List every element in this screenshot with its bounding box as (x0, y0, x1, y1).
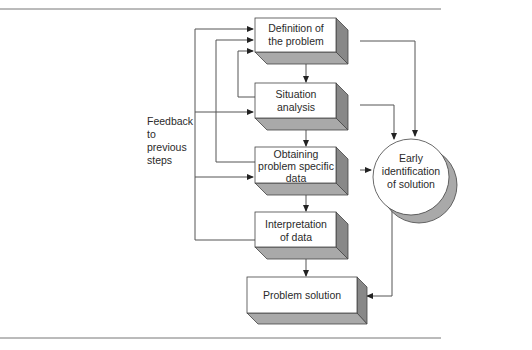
problem-solving-diagram: Definition of the problem Situation anal… (0, 0, 532, 350)
circle-label: identification (382, 165, 441, 177)
box-label: Situation (276, 88, 317, 100)
box-definition: Definition of the problem (255, 18, 348, 64)
box-label: problem specific (258, 160, 334, 172)
box-label: Interpretation (265, 218, 327, 230)
feedback-label-line: to (147, 128, 156, 140)
box-interpretation: Interpretation of data (255, 212, 348, 259)
feedback-label-line: previous (147, 141, 187, 153)
box-label: Obtaining (274, 148, 319, 160)
feedback-lines (195, 29, 255, 240)
box-label: of data (280, 231, 312, 243)
box-obtaining: Obtaining problem specific data (255, 147, 348, 195)
box-label: Problem solution (263, 289, 341, 301)
feedback-label-line: steps (147, 154, 172, 166)
feedback-label: Feedback to previous steps (147, 115, 194, 166)
box-label: Definition of (268, 22, 324, 34)
box-label: analysis (277, 101, 315, 113)
box-situation: Situation analysis (255, 83, 348, 130)
box-solution: Problem solution (247, 277, 367, 324)
box-label: the problem (268, 35, 324, 47)
circle-label: Early (399, 152, 424, 164)
circle-early-identification: Early identification of solution (373, 139, 457, 223)
box-label: data (286, 172, 307, 184)
circle-label: of solution (387, 178, 435, 190)
feedback-label-line: Feedback (147, 115, 194, 127)
